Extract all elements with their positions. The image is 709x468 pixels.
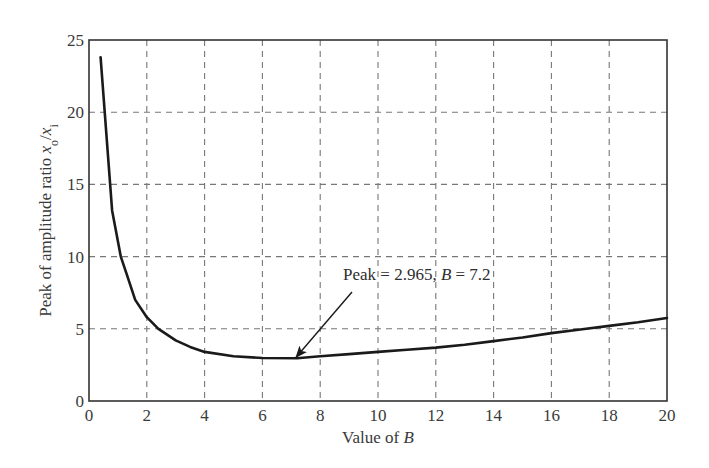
x-tick-label: 14 — [485, 406, 503, 425]
x-tick-label: 4 — [200, 406, 209, 425]
y-tick-label: 0 — [76, 392, 85, 411]
y-tick-label: 10 — [67, 248, 84, 267]
x-tick-label: 10 — [370, 406, 387, 425]
annotation-text: Peak = 2.965, B = 7.2 — [343, 265, 491, 284]
y-axis-label: Peak of amplitude ratio xo/xi — [36, 124, 61, 317]
x-tick-label: 6 — [258, 406, 267, 425]
x-tick-label: 0 — [85, 406, 94, 425]
x-tick-label: 18 — [601, 406, 618, 425]
x-tick-label: 12 — [427, 406, 444, 425]
x-tick-label: 2 — [143, 406, 152, 425]
annotation-arrow — [296, 292, 352, 357]
data-line — [101, 57, 667, 358]
y-tick-label: 5 — [76, 320, 85, 339]
y-axis-ticks: 0510152025 — [67, 31, 84, 411]
chart: 02468101214161820 0510152025 Peak = 2.96… — [0, 0, 709, 468]
x-tick-label: 8 — [316, 406, 325, 425]
x-tick-label: 16 — [543, 406, 560, 425]
y-tick-label: 20 — [67, 103, 84, 122]
grid-lines — [89, 40, 667, 401]
x-tick-label: 20 — [659, 406, 676, 425]
x-axis-label: Value of B — [342, 428, 414, 447]
x-axis-ticks: 02468101214161820 — [85, 406, 676, 425]
y-tick-label: 15 — [67, 175, 84, 194]
y-tick-label: 25 — [67, 31, 84, 50]
